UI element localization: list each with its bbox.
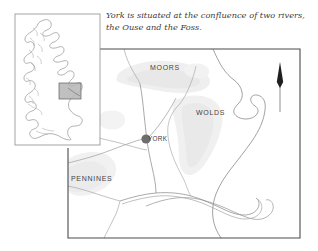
map-canvas: MOORS WOLDS PENNINES YORK bbox=[0, 0, 318, 251]
label-pennines: PENNINES bbox=[71, 175, 112, 182]
main-map: MOORS WOLDS PENNINES YORK bbox=[68, 49, 300, 238]
label-moors: MOORS bbox=[150, 64, 180, 71]
label-wolds: WOLDS bbox=[196, 109, 225, 116]
label-york: YORK bbox=[148, 135, 168, 142]
study-area-highlight bbox=[59, 83, 81, 99]
map-figure: York is situated at the confluence of tw… bbox=[0, 0, 318, 251]
upland-patch-a bbox=[98, 111, 125, 130]
inset-map bbox=[15, 14, 100, 145]
